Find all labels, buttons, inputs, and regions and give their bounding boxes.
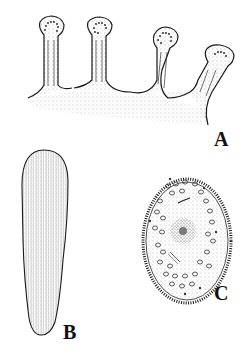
panel-label-a: A [214, 129, 228, 149]
panel-label-b: B [63, 322, 76, 342]
panel-b-body [22, 150, 68, 335]
figure-illustration [0, 0, 250, 355]
panel-a-projections [28, 16, 234, 125]
panel-label-c: C [214, 283, 228, 303]
